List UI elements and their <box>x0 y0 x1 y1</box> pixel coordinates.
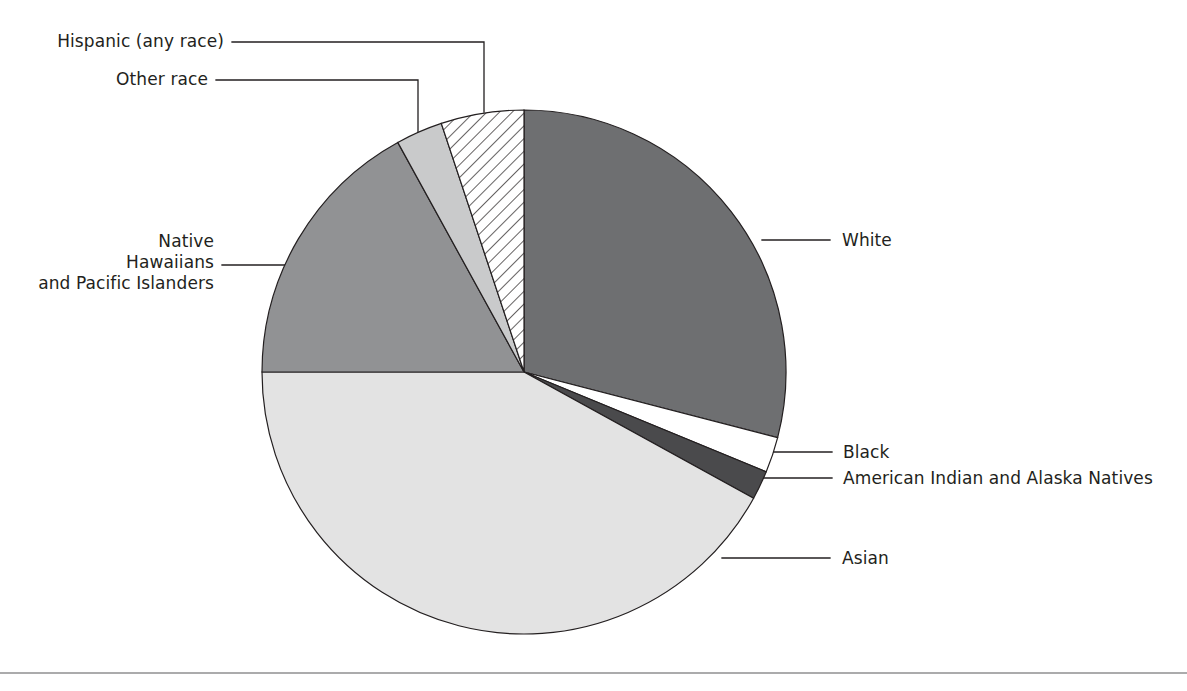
label-black: Black <box>843 442 890 463</box>
label-black-text: Black <box>843 442 890 462</box>
label-american-indian-text: American Indian and Alaska Natives <box>843 468 1153 488</box>
label-white: White <box>842 230 892 251</box>
label-native-hawaiians-line2: Hawaiians <box>38 252 214 273</box>
label-american-indian: American Indian and Alaska Natives <box>843 468 1153 489</box>
label-asian: Asian <box>842 548 889 569</box>
pie-chart-canvas <box>0 0 1187 691</box>
label-hispanic-text: Hispanic (any race) <box>57 31 224 51</box>
label-native-hawaiians-line1: Native <box>38 231 214 252</box>
label-asian-text: Asian <box>842 548 889 568</box>
pie-slices <box>262 110 786 634</box>
leader-line-hispanic <box>232 42 484 112</box>
pie-chart-figure: Hispanic (any race) Other race Native Ha… <box>0 0 1187 691</box>
label-other-race-text: Other race <box>116 69 208 89</box>
label-other-race: Other race <box>116 69 208 90</box>
label-hispanic: Hispanic (any race) <box>57 31 224 52</box>
label-native-hawaiians-line3: and Pacific Islanders <box>38 273 214 294</box>
label-native-hawaiians: Native Hawaiians and Pacific Islanders <box>38 231 214 294</box>
leader-line-other-race <box>216 80 418 140</box>
label-white-text: White <box>842 230 892 250</box>
